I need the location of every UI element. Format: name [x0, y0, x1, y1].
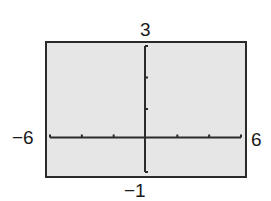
ymin-label: −1 [124, 181, 146, 200]
xmax-label: 6 [251, 130, 262, 149]
xmin-label: −6 [12, 128, 34, 147]
ymax-label: 3 [140, 20, 151, 39]
graph-canvas [0, 0, 271, 201]
